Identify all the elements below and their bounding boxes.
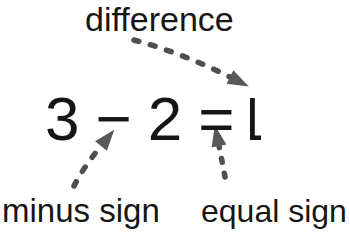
- equation-subtrahend: 2: [148, 88, 182, 150]
- equation: 3 − 2 = 1: [45, 88, 261, 150]
- equation-difference-value: 1: [250, 88, 261, 150]
- difference-label: difference: [85, 1, 234, 38]
- minus-sign-label: minus sign: [2, 193, 160, 229]
- minus-sign: −: [95, 88, 131, 150]
- subtraction-terms-diagram: difference 3 − 2 = 1 minus sign equal si…: [0, 0, 350, 245]
- difference-arrow-icon: [134, 40, 230, 77]
- equal-sign-label: equal sign: [201, 194, 347, 229]
- equation-minuend: 3: [45, 88, 79, 150]
- equals-sign: =: [198, 88, 234, 150]
